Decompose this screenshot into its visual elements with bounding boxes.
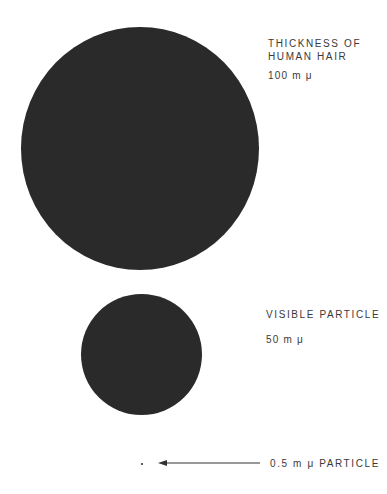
visible-particle-size: 50 m μ bbox=[266, 334, 304, 345]
visible-particle-label: VISIBLE PARTICLE bbox=[266, 308, 380, 321]
human-hair-label: THICKNESS OF HUMAN HAIR bbox=[268, 37, 361, 63]
small-particle-dot bbox=[141, 463, 143, 465]
arrow-left-icon bbox=[158, 458, 262, 468]
human-hair-size: 100 m μ bbox=[268, 70, 313, 81]
small-particle-label: 0.5 m μ PARTICLE bbox=[270, 457, 380, 470]
visible-particle-circle bbox=[81, 294, 202, 415]
human-hair-circle bbox=[21, 27, 259, 270]
